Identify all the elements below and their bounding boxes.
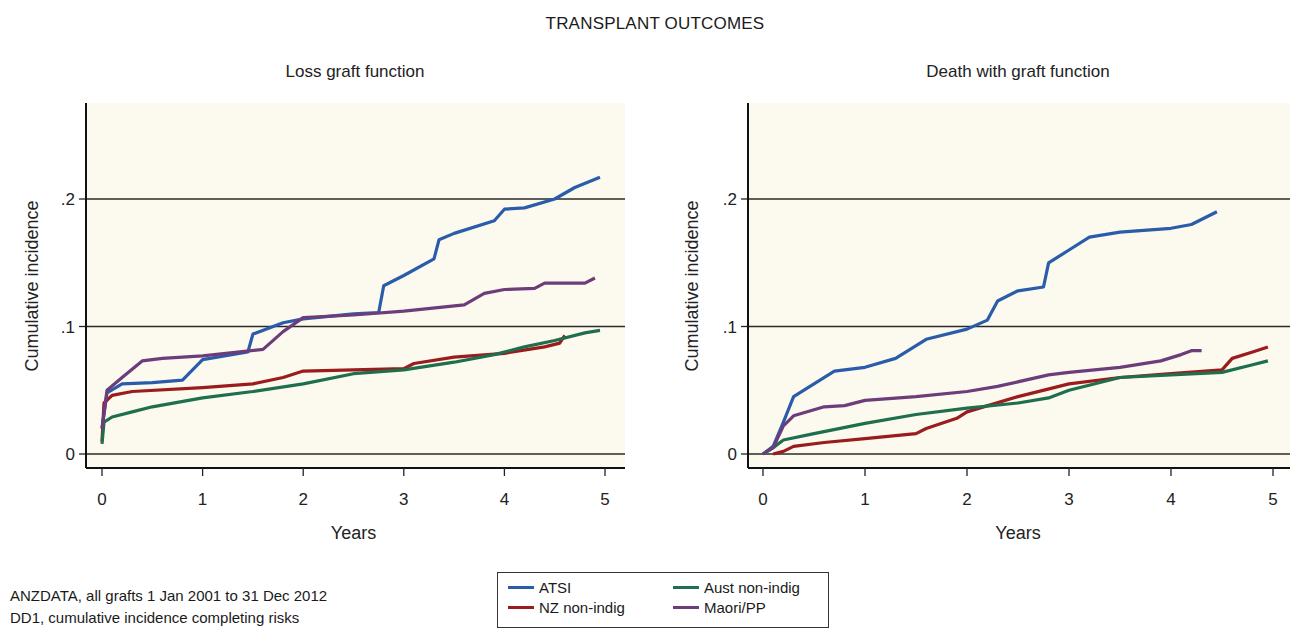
legend-swatch-nz-non-indig (508, 606, 534, 609)
chart-title: Death with graft function (926, 62, 1109, 81)
legend-item-atsi: ATSI (508, 579, 571, 596)
x-tick-label: 3 (399, 490, 408, 509)
x-tick-label: 0 (97, 490, 106, 509)
caption: ANZDATA, all grafts 1 Jan 2001 to 31 Dec… (10, 585, 327, 629)
x-tick-label: 4 (1166, 490, 1175, 509)
y-tick-label: .1 (61, 318, 75, 337)
x-tick-label: 2 (298, 490, 307, 509)
x-axis-label: Years (995, 523, 1040, 543)
legend-label: Maori/PP (704, 599, 766, 616)
y-tick-label: 0 (66, 445, 75, 464)
x-tick-label: 5 (1268, 490, 1277, 509)
x-axis-label: Years (331, 523, 376, 543)
legend-label: Aust non-indig (704, 579, 800, 596)
charts-canvas: 0.1.2012345Loss graft functionYearsCumul… (0, 0, 1310, 643)
y-tick-label: 0 (728, 445, 737, 464)
legend-item-aust-non-indig: Aust non-indig (673, 579, 800, 596)
y-tick-label: .2 (723, 190, 737, 209)
y-axis-label: Cumulative incidence (22, 200, 42, 371)
y-axis-label: Cumulative incidence (682, 200, 702, 371)
caption-line-1: ANZDATA, all grafts 1 Jan 2001 to 31 Dec… (10, 585, 327, 607)
x-tick-label: 0 (758, 490, 767, 509)
caption-line-2: DD1, cumulative incidence completing ris… (10, 607, 327, 629)
plot-area (86, 103, 625, 468)
x-tick-label: 2 (962, 490, 971, 509)
legend-swatch-maori-pp (673, 606, 699, 609)
legend-item-maori-pp: Maori/PP (673, 599, 766, 616)
plot-area (748, 103, 1290, 468)
x-tick-label: 5 (600, 490, 609, 509)
legend-swatch-atsi (508, 586, 534, 589)
x-tick-label: 4 (500, 490, 509, 509)
legend-item-nz-non-indig: NZ non-indig (508, 599, 625, 616)
chart-title: Loss graft function (286, 62, 425, 81)
chart-death-with-graft-function: 0.1.2012345Death with graft functionYear… (682, 62, 1290, 543)
x-tick-label: 1 (198, 490, 207, 509)
legend-swatch-aust-non-indig (673, 586, 699, 589)
legend-label: ATSI (539, 579, 571, 596)
y-tick-label: .1 (723, 318, 737, 337)
y-tick-label: .2 (61, 190, 75, 209)
legend-label: NZ non-indig (539, 599, 625, 616)
x-tick-label: 3 (1064, 490, 1073, 509)
x-tick-label: 1 (860, 490, 869, 509)
legend: ATSI NZ non-indig Aust non-indig Maori/P… (497, 572, 829, 628)
chart-loss-graft-function: 0.1.2012345Loss graft functionYearsCumul… (22, 62, 625, 543)
